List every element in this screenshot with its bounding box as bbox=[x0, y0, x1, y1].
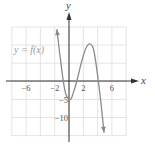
x-tick-label: −6 bbox=[22, 83, 31, 93]
y-tick-label: −10 bbox=[55, 113, 68, 123]
function-graph: −6−226−5−10 y = f(x) x y bbox=[0, 0, 155, 154]
x-tick-label: −2 bbox=[50, 83, 59, 93]
y-axis-label: y bbox=[65, 0, 71, 11]
x-axis-arrow-icon bbox=[131, 79, 139, 84]
y-axis-arrow-icon bbox=[67, 12, 72, 20]
x-axis-label: x bbox=[140, 74, 146, 86]
x-tick-label: 2 bbox=[81, 83, 85, 93]
curve-label: y = f(x) bbox=[13, 44, 45, 56]
tick-labels: −6−226−5−10 bbox=[22, 83, 114, 123]
x-tick-label: 6 bbox=[110, 83, 114, 93]
